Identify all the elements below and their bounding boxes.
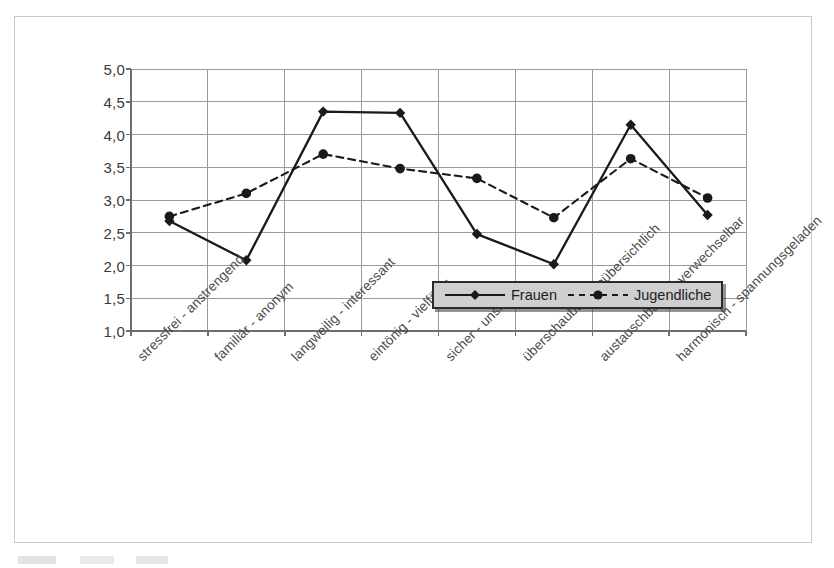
data-point-jugendliche-5 <box>549 213 559 223</box>
data-point-jugendliche-0 <box>165 212 175 222</box>
legend-label-jugendliche: Jugendliche <box>634 287 711 303</box>
data-point-jugendliche-7 <box>703 193 713 203</box>
y-axis-tick-labels: 5,04,54,03,53,02,52,01,51,0 <box>77 17 125 544</box>
legend-entry-jugendliche[interactable]: Jugendliche <box>567 287 711 303</box>
y-tick-label: 1,5 <box>81 290 125 307</box>
data-point-jugendliche-4 <box>472 174 482 184</box>
data-point-frauen-1 <box>241 255 251 265</box>
line-chart: 5,04,54,03,53,02,52,01,51,0 stressfrei -… <box>15 17 813 544</box>
legend-swatch-dashed-circle-icon <box>567 288 629 302</box>
legend-entry-frauen[interactable]: Frauen <box>444 287 557 303</box>
y-tick-label: 2,5 <box>81 224 125 241</box>
chart-legend[interactable]: Frauen Jugendliche <box>432 281 723 309</box>
data-point-frauen-5 <box>549 259 559 269</box>
y-tick-label: 5,0 <box>81 61 125 78</box>
y-tick-label: 3,0 <box>81 192 125 209</box>
y-tick-label: 1,0 <box>81 323 125 340</box>
y-tick-label: 2,0 <box>81 257 125 274</box>
data-point-jugendliche-3 <box>395 164 405 174</box>
legend-label-frauen: Frauen <box>511 287 557 303</box>
data-point-jugendliche-2 <box>318 149 328 159</box>
scan-artifact <box>18 556 228 564</box>
y-tick-label: 3,5 <box>81 159 125 176</box>
data-point-jugendliche-1 <box>242 189 252 199</box>
data-point-jugendliche-6 <box>626 154 636 164</box>
y-tick-label: 4,5 <box>81 93 125 110</box>
legend-swatch-solid-diamond-icon <box>444 288 506 302</box>
figure-frame: 5,04,54,03,53,02,52,01,51,0 stressfrei -… <box>14 16 812 543</box>
data-point-frauen-2 <box>318 106 328 116</box>
y-tick-label: 4,0 <box>81 126 125 143</box>
